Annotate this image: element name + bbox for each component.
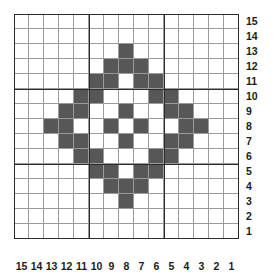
grid-cell[interactable] [164,104,179,119]
grid-cell[interactable] [74,149,89,164]
grid-cell[interactable] [134,149,149,164]
grid-cell[interactable] [59,149,74,164]
grid-cell[interactable] [149,164,164,179]
grid-cell[interactable] [104,59,119,74]
grid-cell[interactable] [74,14,89,29]
grid-cell[interactable] [209,89,224,104]
grid-cell[interactable] [164,164,179,179]
grid-cell[interactable] [224,149,239,164]
grid-cell[interactable] [224,14,239,29]
grid-cell[interactable] [14,209,29,224]
grid-cell[interactable] [104,149,119,164]
grid-cell[interactable] [29,14,44,29]
grid-cell[interactable] [14,164,29,179]
grid-cell[interactable] [44,209,59,224]
grid-cell[interactable] [44,164,59,179]
grid-cell[interactable] [149,119,164,134]
grid-cell[interactable] [209,104,224,119]
grid-cell[interactable] [29,59,44,74]
grid-cell[interactable] [89,104,104,119]
grid-cell[interactable] [14,104,29,119]
grid-cell[interactable] [59,164,74,179]
grid-cell[interactable] [44,44,59,59]
grid-cell[interactable] [74,104,89,119]
grid-cell[interactable] [194,104,209,119]
grid-cell[interactable] [29,74,44,89]
grid-cell[interactable] [209,119,224,134]
grid-cell[interactable] [119,29,134,44]
grid-cell[interactable] [179,104,194,119]
grid-cell[interactable] [194,14,209,29]
grid-cell[interactable] [29,164,44,179]
grid-cell[interactable] [89,194,104,209]
grid-cell[interactable] [164,119,179,134]
grid-cell[interactable] [89,134,104,149]
grid-cell[interactable] [59,194,74,209]
grid-cell[interactable] [74,209,89,224]
grid-cell[interactable] [179,89,194,104]
grid-cell[interactable] [119,59,134,74]
grid-cell[interactable] [134,74,149,89]
grid-cell[interactable] [134,29,149,44]
grid-cell[interactable] [104,74,119,89]
grid-cell[interactable] [14,29,29,44]
grid-cell[interactable] [224,224,239,239]
grid-cell[interactable] [59,74,74,89]
grid-cell[interactable] [29,29,44,44]
grid-cell[interactable] [134,104,149,119]
grid-cell[interactable] [59,104,74,119]
grid-cell[interactable] [119,44,134,59]
grid-cell[interactable] [164,59,179,74]
grid-cell[interactable] [194,74,209,89]
grid-cell[interactable] [224,74,239,89]
grid-cell[interactable] [179,149,194,164]
grid-cell[interactable] [224,59,239,74]
grid-cell[interactable] [134,194,149,209]
grid-cell[interactable] [59,59,74,74]
grid-cell[interactable] [164,194,179,209]
grid-cell[interactable] [74,29,89,44]
grid-cell[interactable] [164,44,179,59]
grid-cell[interactable] [44,74,59,89]
grid-cell[interactable] [134,164,149,179]
grid-cell[interactable] [119,14,134,29]
grid-cell[interactable] [179,134,194,149]
grid-cell[interactable] [104,134,119,149]
grid-cell[interactable] [119,149,134,164]
grid-cell[interactable] [224,29,239,44]
grid-cell[interactable] [194,149,209,164]
grid-cell[interactable] [179,44,194,59]
grid-cell[interactable] [149,134,164,149]
grid-cell[interactable] [119,194,134,209]
grid-cell[interactable] [164,209,179,224]
grid-cell[interactable] [14,59,29,74]
grid-cell[interactable] [74,74,89,89]
grid-cell[interactable] [29,179,44,194]
grid-cell[interactable] [14,14,29,29]
grid-cell[interactable] [119,179,134,194]
grid-cell[interactable] [89,44,104,59]
grid-cell[interactable] [224,119,239,134]
grid-cell[interactable] [209,44,224,59]
grid-cell[interactable] [209,59,224,74]
grid-cell[interactable] [89,164,104,179]
grid-cell[interactable] [74,134,89,149]
grid-cell[interactable] [149,209,164,224]
grid-cell[interactable] [134,179,149,194]
grid-cell[interactable] [89,29,104,44]
grid-cell[interactable] [149,44,164,59]
grid-cell[interactable] [134,44,149,59]
grid-cell[interactable] [14,194,29,209]
grid-cell[interactable] [44,59,59,74]
grid-cell[interactable] [74,194,89,209]
grid-cell[interactable] [119,89,134,104]
grid-cell[interactable] [224,89,239,104]
grid-cell[interactable] [59,224,74,239]
grid-cell[interactable] [179,59,194,74]
grid-cell[interactable] [209,29,224,44]
grid-cell[interactable] [104,164,119,179]
grid-cell[interactable] [29,119,44,134]
grid-cell[interactable] [134,59,149,74]
grid-cell[interactable] [44,104,59,119]
grid-cell[interactable] [149,224,164,239]
